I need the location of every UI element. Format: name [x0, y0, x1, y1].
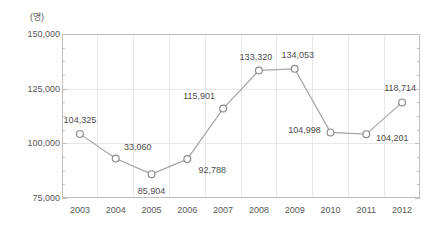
data-point-value-label: 33,060	[124, 142, 152, 152]
y-axis-tick-label: 100,000	[8, 138, 60, 148]
x-axis-tick-label: 2003	[70, 205, 90, 215]
data-point-value-label: 104,325	[64, 115, 97, 125]
x-axis-tick-label: 2008	[249, 205, 269, 215]
data-point-value-label: 104,201	[376, 133, 409, 143]
data-point-value-label: 115,901	[183, 91, 215, 101]
x-axis-tick-label: 2007	[213, 205, 233, 215]
x-axis-tick-label: 2005	[141, 205, 161, 215]
x-axis-tick-label: 2004	[106, 205, 126, 215]
line-chart: (명) 75,000100,000125,000150,000 20032004…	[0, 0, 438, 231]
data-point-value-label: 92,788	[199, 165, 227, 175]
y-axis-labels: 75,000100,000125,000150,000	[6, 0, 60, 231]
y-axis-tick-label: 150,000	[8, 29, 60, 39]
y-axis-tick-label: 75,000	[8, 193, 60, 203]
x-axis-tick-label: 2011	[357, 205, 376, 215]
data-point-value-label: 85,904	[138, 186, 166, 196]
x-axis-tick-label: 2012	[392, 205, 412, 215]
x-axis-tick-label: 2006	[177, 205, 197, 215]
y-axis-tick-label: 125,000	[8, 84, 60, 94]
x-axis-tick-label: 2009	[285, 205, 305, 215]
data-point-value-label: 118,714	[384, 83, 416, 93]
data-point-value-label: 134,053	[281, 50, 314, 60]
data-point-value-label: 133,320	[240, 52, 273, 62]
x-axis-tick-label: 2010	[320, 205, 340, 215]
data-point-value-label: 104,998	[288, 125, 321, 135]
